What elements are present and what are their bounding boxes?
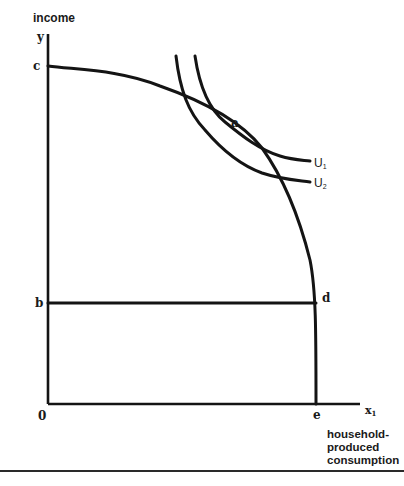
x-axis-symbol-subscript: 1: [372, 409, 377, 418]
origin-label: 0: [38, 409, 46, 423]
point-c-label: c: [33, 59, 40, 73]
indifference-curve-u1: [195, 56, 310, 161]
u1-label: U1: [314, 156, 327, 170]
u2-label-subscript: 2: [323, 183, 327, 190]
x-axis-title-line-2: produced: [327, 441, 379, 453]
x-axis-title: household- produced consumption: [327, 428, 399, 466]
x-axis-title-line-3: consumption: [327, 454, 399, 466]
point-d-label: d: [322, 291, 331, 305]
u2-label-text: U: [314, 176, 323, 190]
x-axis-title-line-1: household-: [327, 428, 389, 440]
indifference-curve-u2: [176, 56, 310, 182]
point-b-label: b: [35, 296, 43, 310]
point-e-label: e: [313, 408, 321, 422]
production-frontier-curve: [48, 66, 316, 404]
production-possibility-diagram: income y c b 0 a d e U1 U2 x1 household-…: [0, 0, 404, 486]
u1-label-subscript: 1: [323, 163, 327, 170]
x-axis-symbol: x1: [365, 404, 377, 418]
point-a-label: a: [231, 116, 239, 130]
u2-label: U2: [314, 176, 327, 190]
y-axis-title: income: [33, 11, 75, 25]
y-axis-symbol: y: [36, 30, 45, 44]
u1-label-text: U: [314, 156, 323, 170]
